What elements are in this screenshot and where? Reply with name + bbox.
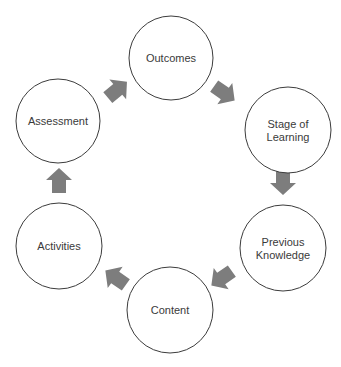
node-label: Assessment (28, 115, 88, 127)
node-assessment: Assessment (16, 79, 100, 163)
arrow-icon-stage-of-learning-to-previous-knowledge (270, 170, 296, 195)
arrow-icon-activities-to-assessment (46, 168, 72, 193)
node-label: Stage of (268, 118, 310, 130)
arrow-icon-assessment-to-outcomes (99, 72, 135, 108)
arrow-icon-content-to-activities (98, 260, 133, 296)
arrow-icon-outcomes-to-stage-of-learning (207, 75, 242, 111)
node-stage-of-learning: Stage ofLearning (245, 87, 331, 173)
node-previous-knowledge: PreviousKnowledge (240, 205, 326, 291)
node-activities: Activities (16, 203, 102, 289)
node-content: Content (127, 267, 213, 353)
node-label: Content (151, 304, 190, 316)
node-label: Activities (37, 240, 81, 252)
node-outcomes: Outcomes (129, 16, 213, 100)
learning-cycle-diagram: OutcomesStage ofLearningPreviousKnowledg… (0, 0, 341, 367)
arrow-icon-previous-knowledge-to-content (204, 260, 239, 296)
node-label: Previous (262, 236, 305, 248)
node-label: Outcomes (146, 52, 197, 64)
node-label: Knowledge (256, 249, 310, 261)
node-label: Learning (267, 131, 310, 143)
